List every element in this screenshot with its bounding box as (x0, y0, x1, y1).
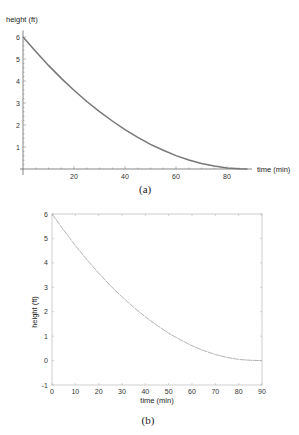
chart-b-xtick: 10 (71, 388, 79, 395)
chart-b-ytick: 5 (44, 235, 48, 242)
chart-b-line (52, 214, 262, 361)
chart-b-xtick: 70 (211, 388, 219, 395)
chart-b-xtick: 20 (95, 388, 103, 395)
chart-b-axes: 0102030405060708090-10123456 (42, 211, 266, 396)
chart-b-ytick: 6 (44, 211, 48, 218)
chart-b-ytick: 2 (44, 308, 48, 315)
chart-b-xtick: 90 (258, 388, 266, 395)
chart-b: 0102030405060708090-10123456 height (ft)… (0, 0, 299, 435)
chart-b-ylabel: height (ft) (30, 296, 39, 328)
chart-b-xtick: 80 (235, 388, 243, 395)
chart-b-xtick: 40 (141, 388, 149, 395)
chart-b-ytick: -1 (42, 382, 48, 389)
chart-b-ytick: 0 (44, 357, 48, 364)
chart-b-ytick: 1 (44, 333, 48, 340)
chart-b-xtick: 30 (118, 388, 126, 395)
chart-b-ytick: 4 (44, 259, 48, 266)
chart-b-frame (52, 214, 262, 385)
chart-b-caption: (b) (142, 414, 155, 427)
chart-b-xlabel: time (min) (140, 396, 174, 405)
chart-b-xtick: 50 (165, 388, 173, 395)
chart-b-xtick: 60 (188, 388, 196, 395)
chart-b-xtick: 0 (50, 388, 54, 395)
chart-b-ytick: 3 (44, 284, 48, 291)
